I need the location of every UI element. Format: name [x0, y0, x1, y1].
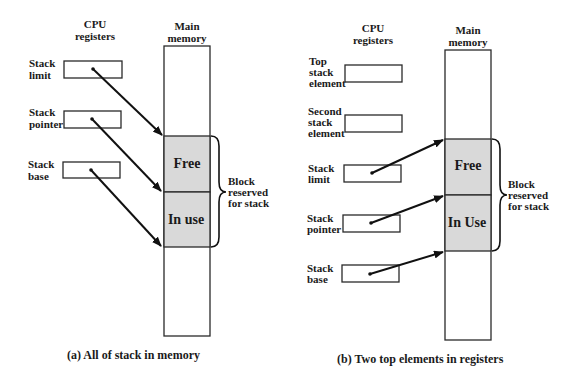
cpu-registers-header-line2: registers [353, 34, 394, 46]
free-block-label: Free [455, 158, 482, 173]
caption-b: (b) Two top elements in registers [337, 352, 504, 366]
cpu-registers-header-line2: registers [75, 30, 116, 42]
register-label-stack-base-2: base [307, 273, 328, 285]
stack-base-arrow [370, 252, 443, 274]
brace-label-line3: for stack [228, 197, 270, 209]
in-use-block-label: In use [168, 212, 204, 227]
stack-pointer-arrow [371, 196, 443, 223]
register-box-top-stack-element [345, 65, 402, 82]
main-memory-header-line2: memory [448, 36, 488, 48]
register-label-stack-pointer-2: pointer [307, 223, 341, 235]
register-label-stack-limit-2: limit [308, 173, 330, 185]
main-memory-header-line2: memory [167, 32, 207, 44]
register-label-stack-base-2: base [28, 170, 49, 182]
free-block-label: Free [174, 156, 201, 171]
register-label-second-stack-element-3: element [308, 127, 345, 139]
in-use-block-label: In Use [448, 215, 487, 230]
register-label-stack-pointer-2: pointer [29, 118, 63, 130]
panel-a: CPU registers Main memory Stack limit St… [28, 18, 270, 362]
register-label-stack-base: Stack [28, 158, 55, 170]
brace-label-line3: for stack [508, 200, 550, 212]
stack-pointer-arrow [92, 119, 161, 191]
register-label-stack-pointer: Stack [29, 106, 56, 118]
cpu-registers-header-line1: CPU [84, 18, 107, 30]
register-label-top-stack-element-3: element [309, 77, 346, 89]
curly-brace-icon [211, 136, 226, 247]
register-label-stack-limit-2: limit [29, 69, 51, 81]
cpu-registers-header-line1: CPU [362, 22, 385, 34]
register-label-stack-limit: Stack [29, 57, 56, 69]
curly-brace-icon [492, 139, 507, 251]
panel-b: CPU registers Main memory Top stack elem… [307, 22, 550, 366]
caption-a: (a) All of stack in memory [67, 348, 200, 362]
stack-diagram: CPU registers Main memory Stack limit St… [0, 0, 571, 367]
register-box-second-stack-element [345, 115, 402, 132]
stack-limit-arrow [372, 140, 443, 173]
main-memory-header-line1: Main [174, 20, 199, 32]
main-memory-header-line1: Main [455, 24, 480, 36]
